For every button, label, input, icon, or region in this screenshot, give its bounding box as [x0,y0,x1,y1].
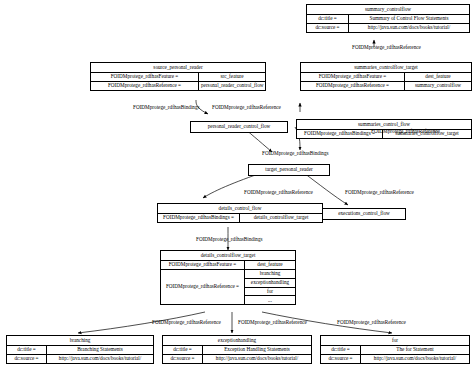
node-title: details_control_flow [158,204,322,213]
node-title: executions_control_flow [323,209,405,219]
property-key: dc:title = [307,15,349,23]
property-value: for [245,288,295,297]
edge-label: FOIDMprotege_rdfhasReference [345,189,414,195]
property-key: FOIDMprotege_rdfhasBindings = [158,214,240,222]
property-key: FOIDMprotege_rdfhasReference = [301,82,405,90]
edge-label: FOIDMprotege_rdfhasBindings [262,150,329,156]
node-details-control-flow[interactable]: details_control_flow FOIDMprotege_rdfhas… [157,203,323,223]
property-key: FOIDMprotege_rdfhasFeature = [301,73,405,81]
rdf-graph-canvas: summary_controlflow dc:title = Summary o… [0,0,474,379]
node-exceptionhandling[interactable]: exceptionhandling dc:title = Exception H… [162,335,312,364]
property-key: dc:source = [321,355,361,363]
property-value: Exception Handling Statements [203,346,311,354]
node-summary-controlflow[interactable]: summary_controlflow dc:title = Summary o… [306,4,470,33]
property-key: FOIDMprotege_rdfhasFeature = [91,73,199,81]
property-key: FOIDMprotege_rdfhasReference = [161,270,245,304]
property-key: dc:title = [321,346,361,354]
node-row: dc:title = Branching Statements [7,345,153,354]
property-value: dest_feature [245,261,295,269]
edge-label: FOIDMprotege_rdfhasBindings [196,236,263,242]
edge-label: FOIDMprotege_rdfhasReference [352,44,421,50]
property-key: dc:source = [307,24,349,32]
property-value: http://java.sun.com/docs/books/tutorial/ [47,355,153,363]
node-target-personal-reader[interactable]: target_personal_reader [248,164,330,176]
property-value: http://java.sun.com/docs/books/tutorial/ [349,24,469,32]
node-row: FOIDMprotege_rdfhasReference = personal_… [91,81,265,90]
node-row: FOIDMprotege_rdfhasFeature = dest_featur… [301,72,471,81]
edge-label: FOIDMprotege_rdfhasReference [152,319,221,325]
node-row: FOIDMprotege_rdfhasReference = summary_c… [301,81,471,90]
node-title: exceptionhandling [163,336,311,345]
node-row: FOIDMprotege_rdfhasBindings = details_co… [158,213,322,222]
edge-label: FOIDMprotege_rdfhasReference [212,104,281,110]
node-title: details_controlflow_target [161,251,295,260]
edge-label: FOIDMprotege_rdfhasReference [337,319,406,325]
node-row: dc:source = http://java.sun.com/docs/boo… [163,354,311,363]
property-key: dc:source = [163,355,203,363]
property-value: http://java.sun.com/docs/books/tutorial/ [203,355,311,363]
node-row: dc:source = http://java.sun.com/docs/boo… [7,354,153,363]
edge-label: FOIDMprotege_rdfhasReference [238,319,307,325]
property-value-list: branching exceptionhandling for ... [245,270,295,304]
node-row: FOIDMprotege_rdfhasFeature = src_feature [91,72,265,81]
node-title: summaries_controlflow_target [301,63,471,72]
node-summaries-controlflow-target[interactable]: summaries_controlflow_target FOIDMproteg… [300,62,472,91]
edge-label: FOIDMprotege_rdfhasReference [244,189,313,195]
node-title: summary_controlflow [307,5,469,14]
property-value: The for Statement [361,346,469,354]
node-for[interactable]: for dc:title = The for Statement dc:sour… [320,335,470,364]
node-row: dc:source = http://java.sun.com/docs/boo… [321,354,469,363]
node-title: target_personal_reader [249,165,329,175]
property-value: summary_controlflow [405,82,471,90]
property-value: personal_reader_control_flow [199,82,265,90]
property-value: details_controlflow_target [240,214,322,222]
node-row: dc:source = http://java.sun.com/docs/boo… [307,23,469,32]
node-details-controlflow-target[interactable]: details_controlflow_target FOIDMprotege_… [160,250,296,305]
property-key: FOIDMprotege_rdfhasFeature = [161,261,245,269]
node-row: FOIDMprotege_rdfhasFeature = dest_featur… [161,260,295,269]
node-personal-reader-control-flow[interactable]: personal_reader_control_flow [190,121,288,133]
property-value: Branching Statements [47,346,153,354]
node-title: for [321,336,469,345]
property-value: src_feature [199,73,265,81]
property-key: dc:source = [7,355,47,363]
property-value: dest_feature [405,73,471,81]
node-title: personal_reader_control_flow [191,122,287,132]
property-value: exceptionhandling [245,279,295,288]
node-row: dc:title = Summary of Control Flow State… [307,14,469,23]
property-key: dc:title = [163,346,203,354]
property-key: FOIDMprotege_rdfhasReference = [91,82,199,90]
node-branching[interactable]: branching dc:title = Branching Statement… [6,335,154,364]
node-row-multi: FOIDMprotege_rdfhasReference = branching… [161,269,295,304]
node-source-personal-reader[interactable]: source_personal_reader FOIDMprotege_rdfh… [90,62,266,91]
property-value: Summary of Control Flow Statements [349,15,469,23]
node-title: branching [7,336,153,345]
property-value: ... [245,296,295,304]
node-row: dc:title = The for Statement [321,345,469,354]
property-key: dc:title = [7,346,47,354]
node-title: source_personal_reader [91,63,265,72]
node-executions-control-flow[interactable]: executions_control_flow [322,208,406,220]
node-row: dc:title = Exception Handling Statements [163,345,311,354]
edge-label: FOIDMprotege_rdfhasReference [371,128,440,134]
property-value: branching [245,270,295,279]
property-value: http://java.sun.com/docs/books/tutorial/ [361,355,469,363]
edge-label: FOIDMprotege_rdfhasBindings [133,104,200,110]
